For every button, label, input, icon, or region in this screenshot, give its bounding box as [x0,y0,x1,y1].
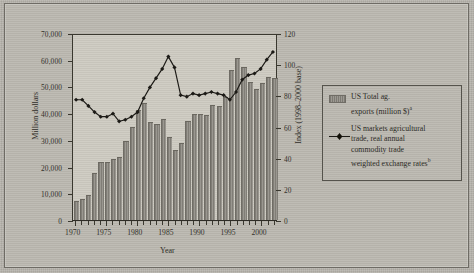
x-tick-label: 2000 [251,228,266,237]
line-marker [185,95,189,99]
x-tick [268,221,269,225]
y2-tick-label: 0 [284,217,288,226]
y2-axis-title: Index (1998–2000 base) [294,66,303,144]
x-tick [230,221,231,226]
y2-tick [276,221,281,222]
y-tick-label: 50,000 [5,83,62,92]
y-tick-label: 0 [5,217,62,226]
legend-line-footnote: b [428,157,431,163]
x-tick-label: 1980 [127,228,142,237]
x-tick [206,221,207,225]
y-tick [68,87,73,88]
x-tick [112,221,113,225]
x-tick [125,221,126,225]
line-marker [179,93,183,97]
figure-frame: Million dollars Index (1998–2000 base) Y… [4,3,469,268]
chart-page: Million dollars Index (1998–2000 base) Y… [0,0,474,273]
x-tick-label: 1970 [65,228,80,237]
x-tick [137,221,138,226]
line-marker [197,93,201,97]
x-tick [119,221,120,225]
x-tick [199,221,200,226]
y-tick [68,168,73,169]
y-tick-label: 30,000 [5,137,62,146]
x-tick [94,221,95,225]
legend-bar-label: US Total ag. exports (million $)a [351,92,412,117]
line-marker [105,115,109,119]
x-axis-title: Year [160,246,175,255]
legend-bar-label-line2: exports (million $) [351,106,409,115]
bar-swatch-icon [329,95,346,103]
legend: US Total ag. exports (million $)a US mar… [322,85,462,181]
x-tick [243,221,244,225]
x-tick-label: 1985 [158,228,173,237]
x-tick [150,221,151,225]
y-tick [68,114,73,115]
y2-tick-label: 60 [284,124,292,133]
y2-tick [276,34,281,35]
y2-tick [276,96,281,97]
legend-bar-label-line1: US Total ag. [351,92,390,101]
legend-item-bars: US Total ag. exports (million $)a [329,92,456,117]
x-tick [193,221,194,225]
x-tick-label: 1975 [96,228,111,237]
line-marker [74,98,78,102]
x-tick [255,221,256,225]
y-tick-label: 10,000 [5,190,62,199]
y-tick [68,61,73,62]
x-tick [106,221,107,226]
x-tick [131,221,132,225]
x-tick [75,221,76,226]
y-tick-label: 20,000 [5,164,62,173]
y-tick [68,194,73,195]
legend-bar-swatch [329,92,351,103]
y-tick-label: 60,000 [5,57,62,66]
line-marker-icon [329,132,351,141]
y-tick-label: 70,000 [5,30,62,39]
y2-tick-label: 100 [284,61,295,70]
x-tick [175,221,176,225]
y2-tick-label: 120 [284,30,295,39]
x-tick [237,221,238,225]
x-tick [181,221,182,225]
x-tick [187,221,188,225]
legend-line-label-line3: commodity trade [351,145,404,154]
line-marker [215,92,219,96]
x-tick [218,221,219,225]
plot-area [72,34,277,221]
y2-tick [276,159,281,160]
legend-line-marker [329,124,351,145]
y-tick-label: 40,000 [5,110,62,119]
x-tick [261,221,262,226]
y2-tick [276,65,281,66]
line-path [76,52,273,121]
legend-item-line: US markets agricultural trade, real annu… [329,124,456,170]
line-marker [209,90,213,94]
x-tick [100,221,101,225]
x-tick [249,221,250,225]
line-marker [123,118,127,122]
x-tick [88,221,89,225]
y2-tick-label: 40 [284,155,292,164]
x-tick [274,221,275,225]
x-tick-label: 1995 [220,228,235,237]
y-tick [68,221,73,222]
y2-tick-label: 80 [284,92,292,101]
line-marker [191,92,195,96]
x-tick [156,221,157,225]
y2-tick [276,190,281,191]
y2-tick-label: 20 [284,186,292,195]
y-tick [68,34,73,35]
x-tick [212,221,213,225]
legend-bar-footnote: a [409,105,411,111]
x-tick [224,221,225,225]
x-tick [143,221,144,225]
legend-line-label-line4: weighted exchange rates [351,159,428,168]
x-tick [81,221,82,225]
y2-tick [276,128,281,129]
line-series [73,35,276,220]
y-tick [68,141,73,142]
legend-line-label-line1: US markets agricultural [351,124,425,133]
line-marker [203,92,207,96]
x-tick [162,221,163,225]
